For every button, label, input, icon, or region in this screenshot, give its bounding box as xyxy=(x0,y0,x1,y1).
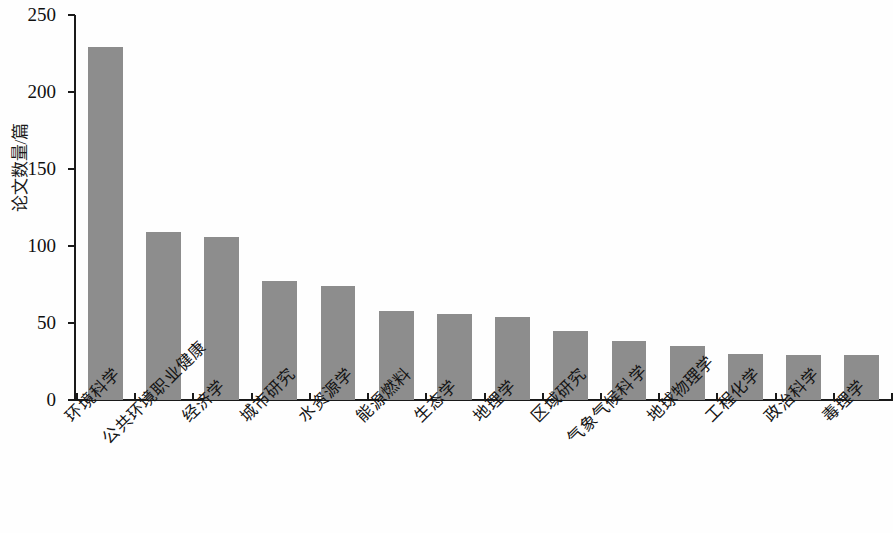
bar xyxy=(88,47,123,400)
y-tick-mark xyxy=(68,168,75,170)
y-tick-label: 150 xyxy=(10,159,56,178)
y-tick-label: 200 xyxy=(10,82,56,101)
y-tick-label: 250 xyxy=(10,5,56,24)
y-tick-label: 0 xyxy=(10,390,56,409)
y-tick-mark xyxy=(68,91,75,93)
y-tick-label: 50 xyxy=(10,313,56,332)
y-tick-label: 100 xyxy=(10,236,56,255)
y-tick-mark xyxy=(68,322,75,324)
bar-chart: 论文数量/篇 050100150200250 环境科学公共环境职业健康经济学城市… xyxy=(0,0,893,533)
y-tick-mark xyxy=(68,14,75,16)
y-tick-mark xyxy=(68,245,75,247)
